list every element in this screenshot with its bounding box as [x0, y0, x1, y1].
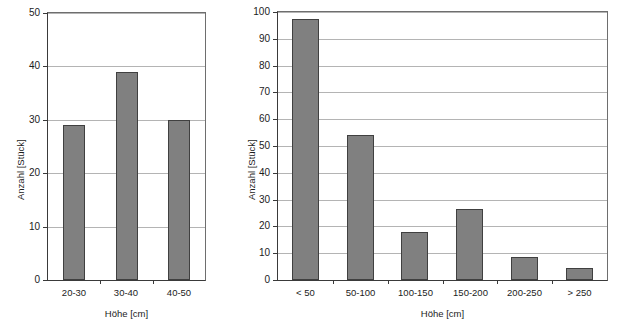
- gridline: [278, 146, 607, 147]
- gridline: [278, 12, 607, 13]
- y-axis-tick-label: 80: [233, 61, 270, 71]
- y-axis-tick: [273, 39, 277, 40]
- y-axis-tick-label: 100: [233, 7, 270, 17]
- x-axis-tick: [333, 280, 334, 284]
- y-axis-tick: [273, 92, 277, 93]
- x-axis-tick: [388, 280, 389, 284]
- y-axis-tick-label: 40: [233, 168, 270, 178]
- bar: [566, 268, 593, 280]
- y-axis-tick: [273, 12, 277, 13]
- y-axis-tick: [273, 226, 277, 227]
- y-axis-tick: [273, 146, 277, 147]
- x-axis-tick: [497, 280, 498, 284]
- x-axis-tick: [443, 280, 444, 284]
- y-axis-tick: [273, 253, 277, 254]
- y-axis-tick-label: 0: [233, 275, 270, 285]
- bar: [292, 19, 319, 280]
- y-axis-tick-label: 30: [233, 195, 270, 205]
- gridline: [278, 92, 607, 93]
- x-axis-tick: [552, 280, 553, 284]
- x-axis-category-label: 100-150: [388, 287, 443, 298]
- x-axis-title-right: Höhe [cm]: [277, 308, 608, 319]
- y-axis-tick-label: 60: [233, 114, 270, 124]
- y-axis-tick: [273, 280, 277, 281]
- gridline: [278, 200, 607, 201]
- gridline: [278, 226, 607, 227]
- gridline: [278, 253, 607, 254]
- y-axis-tick-label: 90: [233, 34, 270, 44]
- gridline: [278, 66, 607, 67]
- gridline: [278, 39, 607, 40]
- x-axis-category-label: > 250: [552, 287, 607, 298]
- y-axis-tick-label: 70: [233, 87, 270, 97]
- x-axis-category-label: 50-100: [333, 287, 388, 298]
- gridline: [278, 173, 607, 174]
- bar: [347, 135, 374, 280]
- y-axis-tick-label: 10: [233, 248, 270, 258]
- y-axis-tick-label: 50: [233, 141, 270, 151]
- gridline: [278, 119, 607, 120]
- y-axis-tick: [273, 173, 277, 174]
- bar: [401, 232, 428, 280]
- bar: [456, 209, 483, 280]
- bar: [511, 257, 538, 280]
- plot-area-right: [277, 11, 608, 281]
- y-axis-tick-label: 20: [233, 221, 270, 231]
- x-axis-category-label: 200-250: [497, 287, 552, 298]
- y-axis-tick: [273, 200, 277, 201]
- y-axis-tick: [273, 119, 277, 120]
- y-axis-tick: [273, 66, 277, 67]
- x-axis-category-label: 150-200: [443, 287, 498, 298]
- x-axis-category-label: < 50: [278, 287, 333, 298]
- plot-inner-right: [278, 12, 607, 280]
- chart-right: Anzahl [Stück] Höhe [cm] 010203040506070…: [0, 0, 620, 331]
